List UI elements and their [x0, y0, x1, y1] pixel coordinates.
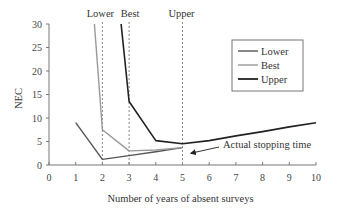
- x-tick-label: 6: [207, 172, 212, 183]
- y-tick-label: 15: [32, 89, 42, 100]
- x-tick-label: 1: [73, 172, 78, 183]
- legend-label-best: Best: [261, 60, 280, 71]
- x-tick-label: 2: [100, 172, 105, 183]
- y-tick-label: 25: [32, 42, 42, 53]
- y-tick-label: 0: [37, 160, 42, 171]
- series-line-best: [94, 24, 182, 151]
- x-tick-label: 5: [180, 172, 185, 183]
- legend-label-lower: Lower: [261, 46, 289, 57]
- marker-label-best: Best: [121, 8, 140, 19]
- x-axis-title: Number of years of absent surveys: [107, 193, 253, 204]
- marker-label-lower: Lower: [87, 8, 115, 19]
- annotation-arrow: [191, 147, 219, 153]
- series-line-lower: [76, 123, 183, 160]
- x-tick-label: 9: [287, 172, 292, 183]
- y-tick-label: 30: [32, 19, 42, 30]
- annotation-text: Actual stopping time: [223, 139, 311, 150]
- legend: LowerBestUpper: [232, 40, 303, 91]
- x-tick-label: 4: [153, 172, 158, 183]
- nec-line-chart: 051015202530012345678910Number of years …: [0, 0, 341, 209]
- legend-label-upper: Upper: [261, 74, 288, 85]
- y-axis-title: NEC: [13, 88, 24, 109]
- x-tick-label: 7: [233, 172, 238, 183]
- x-tick-label: 8: [260, 172, 265, 183]
- y-tick-label: 10: [32, 113, 42, 124]
- y-tick-label: 20: [32, 66, 42, 77]
- x-tick-label: 0: [47, 172, 52, 183]
- x-tick-label: 3: [127, 172, 132, 183]
- x-tick-label: 10: [311, 172, 321, 183]
- y-tick-label: 5: [37, 136, 42, 147]
- vertical-markers: LowerBestUpper: [87, 8, 195, 165]
- marker-label-upper: Upper: [168, 8, 195, 19]
